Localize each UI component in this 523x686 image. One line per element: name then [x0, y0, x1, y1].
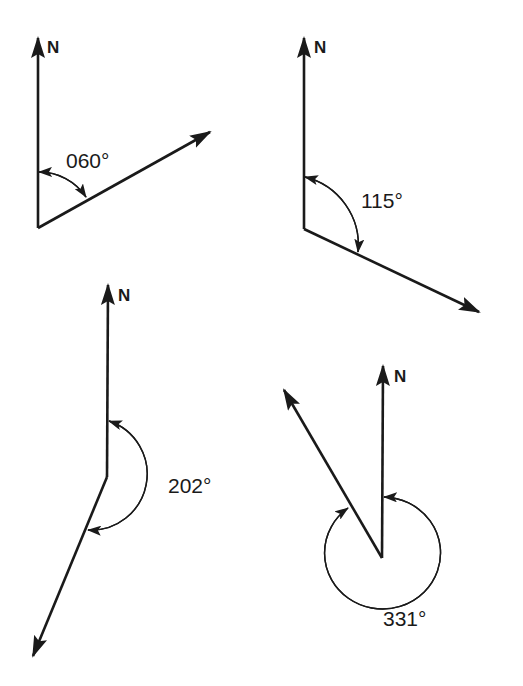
angle-arc: [88, 421, 147, 530]
angle-label: 115°: [361, 190, 403, 211]
angle-arc-end-arrow: [39, 172, 86, 197]
angle-arc-start-arrow: [88, 421, 147, 530]
north-line: [382, 366, 383, 558]
north-label: N: [314, 39, 326, 56]
north-label: N: [394, 368, 406, 385]
bearings-canvas: [0, 0, 523, 686]
angle-label: 331°: [383, 608, 426, 629]
angle-arc: [39, 172, 86, 197]
bearing-arrow: [284, 390, 382, 558]
diagram-bearing-060: [38, 38, 210, 228]
angle-label: 060°: [66, 150, 109, 171]
diagram-bearing-202: [33, 285, 147, 656]
angle-label: 202°: [168, 475, 211, 496]
bearing-arrow: [304, 229, 479, 312]
bearing-arrow: [33, 477, 107, 656]
bearing-arrow: [38, 132, 210, 228]
diagram-bearing-115: [304, 38, 479, 312]
north-label: N: [47, 39, 59, 56]
north-line: [107, 285, 108, 477]
diagram-bearing-331: [284, 366, 441, 609]
bearings-figure: N 060° N 115° N 202° N 331°: [0, 0, 523, 686]
north-label: N: [118, 287, 130, 304]
